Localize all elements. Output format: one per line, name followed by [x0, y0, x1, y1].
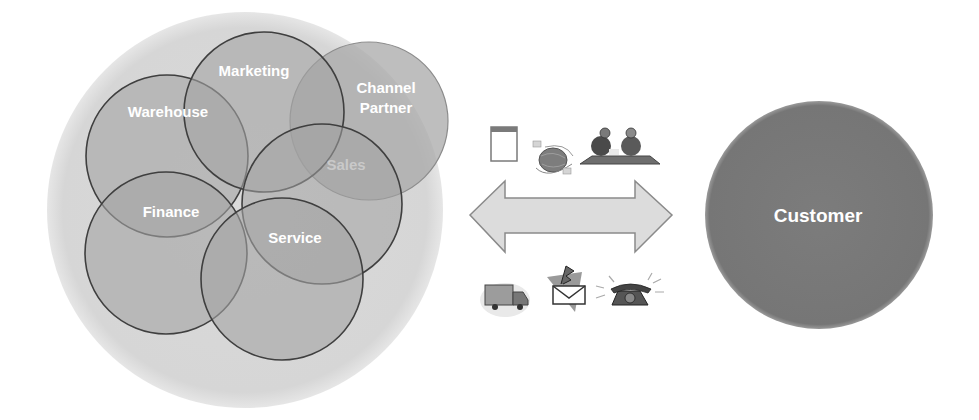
warehouse-label: Warehouse [128, 103, 208, 120]
document-icon [491, 127, 517, 161]
marketing-label: Marketing [219, 62, 290, 79]
bidirectional-arrow [470, 181, 672, 252]
globe-icon [533, 141, 573, 174]
crm-diagram: Marketing Warehouse Channel Partner Sale… [0, 0, 979, 420]
customer-label: Customer [774, 205, 863, 226]
finance-label: Finance [143, 203, 200, 220]
meeting-icon [580, 128, 660, 164]
email-icon [547, 266, 585, 312]
delivery-truck-icon [480, 283, 530, 317]
service-label: Service [268, 229, 321, 246]
channel-partner-label-line1: Channel [356, 79, 415, 96]
sales-label: Sales [326, 156, 365, 173]
service-circle [201, 198, 363, 360]
telephone-icon [596, 273, 664, 305]
channel-partner-label-line2: Partner [360, 99, 413, 116]
